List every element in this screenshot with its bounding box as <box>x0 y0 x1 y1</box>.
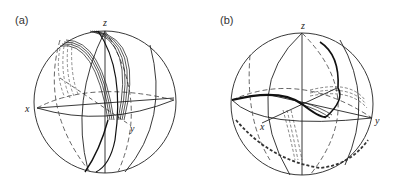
panel-a-dashed-trajectories <box>58 42 78 98</box>
diagram-canvas <box>0 0 393 186</box>
panel-b-trajectories <box>232 42 340 118</box>
panel-a-sphere <box>34 31 176 173</box>
